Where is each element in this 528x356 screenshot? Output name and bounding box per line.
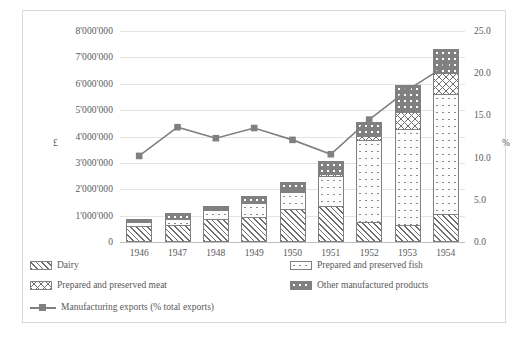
figure-caption — [24, 347, 524, 356]
legend-swatch — [290, 261, 312, 270]
legend-item[interactable]: Prepared and preserved fish — [290, 260, 423, 270]
line-marker — [174, 124, 181, 131]
x-tick-label: 1948 — [206, 248, 225, 258]
legend-item[interactable]: Other manufactured products — [290, 280, 428, 290]
legend-swatch — [290, 281, 312, 290]
right-tick-label: 5.0 — [474, 195, 486, 205]
chart-legend: DairyPrepared and preserved fishPrepared… — [22, 258, 506, 320]
left-tick-label: 7'000'000 — [75, 52, 113, 62]
line-marker — [328, 151, 335, 158]
line-marker — [136, 153, 143, 160]
left-tick-label: 6'000'000 — [75, 79, 113, 89]
x-tick-label: 1947 — [168, 248, 187, 258]
right-tick-label: 20.0 — [474, 68, 491, 78]
legend-label: Other manufactured products — [317, 280, 428, 290]
line-marker — [289, 137, 296, 144]
x-tick-label: 1951 — [321, 248, 340, 258]
legend-swatch — [30, 261, 52, 270]
plot-area: 01'000'0002'000'0003'000'0004'000'0005'0… — [120, 31, 465, 242]
left-tick-label: 5'000'000 — [75, 105, 113, 115]
legend-item[interactable]: Manufacturing exports (% total exports) — [30, 302, 214, 312]
x-tick-label: 1954 — [436, 248, 455, 258]
left-tick-label: 0 — [108, 237, 113, 247]
legend-label: Prepared and preserved fish — [317, 260, 423, 270]
x-tick-label: 1953 — [398, 248, 417, 258]
line-marker — [213, 135, 220, 142]
left-tick-label: 8'000'000 — [75, 26, 113, 36]
legend-label: Manufacturing exports (% total exports) — [61, 302, 214, 312]
left-tick-label: 1'000'000 — [75, 211, 113, 221]
x-tick-label: 1946 — [130, 248, 149, 258]
line-marker — [366, 116, 373, 123]
legend-item[interactable]: Prepared and preserved meat — [30, 280, 167, 290]
x-tick-label: 1952 — [360, 248, 379, 258]
left-tick-label: 3'000'000 — [75, 158, 113, 168]
left-axis-title: £ — [53, 138, 58, 148]
left-tick-label: 4'000'000 — [75, 132, 113, 142]
right-tick-label: 25.0 — [474, 26, 491, 36]
line-marker — [251, 125, 258, 132]
legend-label: Dairy — [57, 260, 79, 270]
legend-line-swatch — [30, 303, 56, 312]
x-tick-label: 1949 — [245, 248, 264, 258]
line-marker — [404, 87, 411, 94]
legend-label: Prepared and preserved meat — [57, 280, 167, 290]
left-tick-label: 2'000'000 — [75, 184, 113, 194]
right-tick-label: 0.0 — [474, 237, 486, 247]
axis-baseline — [120, 242, 465, 243]
right-tick-label: 10.0 — [474, 153, 491, 163]
right-axis-title: % — [502, 138, 510, 148]
legend-item[interactable]: Dairy — [30, 260, 79, 270]
x-tick-label: 1950 — [283, 248, 302, 258]
legend-swatch — [30, 281, 52, 290]
line-series — [120, 31, 465, 242]
line-marker — [443, 62, 450, 69]
right-tick-label: 15.0 — [474, 110, 491, 120]
